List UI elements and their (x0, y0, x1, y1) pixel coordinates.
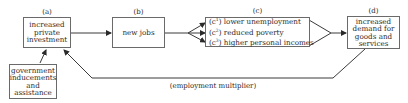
node-c-item: (c2) reduced poverty (209, 27, 314, 38)
node-c-outcomes: (c1) lower unemployment (c2) reduced pov… (205, 17, 310, 47)
node-d-increased-demand: increased demand for goods and services (347, 16, 400, 49)
node-b-new-jobs: new jobs (112, 17, 165, 48)
node-d-tag: (d) (347, 7, 400, 15)
node-c-item: (c1) lower unemployment (209, 16, 314, 27)
node-a-increased-private-investment: increased private investment (23, 17, 71, 48)
arrow-fan-to-c1 (188, 23, 205, 33)
node-a-tag: (a) (23, 8, 71, 16)
employment-multiplier-label: (employment multiplier) (150, 82, 276, 90)
node-government-inducements: government inducements and assistance (9, 64, 57, 99)
node-gov-line: assistance (10, 89, 57, 96)
node-c-item: (c3) higher personal incomes (209, 37, 314, 48)
node-d-line: services (353, 40, 395, 47)
arrow-feedback-d-to-a (64, 49, 365, 78)
node-b-text: new jobs (122, 29, 154, 37)
node-a-line: investment (27, 36, 67, 44)
node-c-tag: (c) (205, 7, 310, 15)
arrow-fan-to-c3 (188, 33, 205, 42)
node-b-tag: (b) (112, 8, 165, 16)
arrow-gov-to-a (40, 50, 46, 63)
